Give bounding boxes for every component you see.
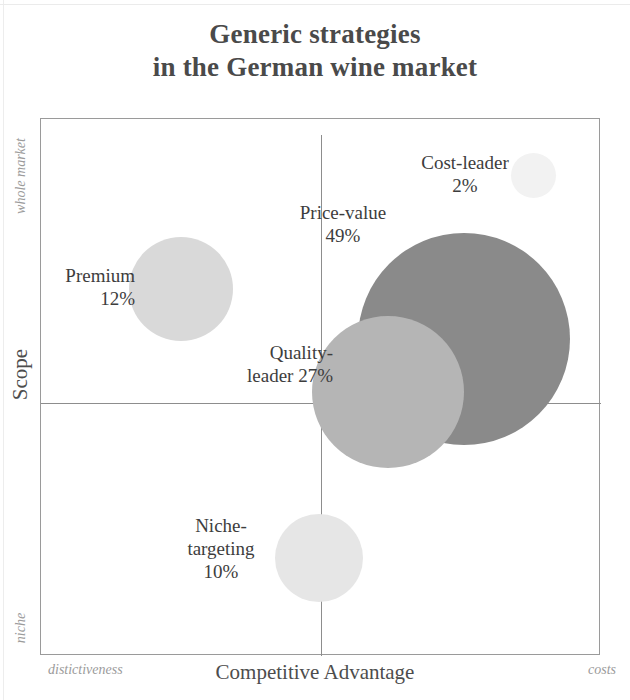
chart-title-line-1: Generic strategies — [0, 18, 630, 51]
x-axis-left-caption: distictiveness — [48, 662, 123, 678]
plot-area: Cost-leader 2% Price-value 49% Premium 1… — [40, 118, 600, 655]
label-niche-targeting-value: 10% — [165, 560, 277, 583]
x-axis-right-caption: costs — [588, 662, 616, 678]
label-quality-leader-value: leader 27% — [201, 364, 333, 387]
label-cost-leader-value: 2% — [387, 174, 543, 197]
label-premium: Premium 12% — [7, 264, 135, 310]
label-price-value: Price-value 49% — [273, 201, 413, 247]
chart-title: Generic strategies in the German wine ma… — [0, 18, 630, 84]
y-axis-title: Scope — [8, 327, 33, 423]
chart-title-line-2: in the German wine market — [0, 51, 630, 84]
label-premium-name: Premium — [7, 264, 135, 287]
y-axis-bottom-caption: niche — [13, 602, 29, 654]
label-quality-leader: Quality- leader 27% — [201, 341, 333, 387]
label-premium-value: 12% — [7, 287, 135, 310]
label-niche-targeting: Niche- targeting 10% — [165, 514, 277, 584]
label-cost-leader-name: Cost-leader — [387, 151, 543, 174]
bubble-niche-targeting[interactable] — [275, 514, 363, 602]
y-axis-top-caption: whole market — [13, 134, 29, 218]
label-niche-targeting-name-2: targeting — [165, 537, 277, 560]
scan-edge-left — [3, 0, 4, 700]
bubble-quality-leader[interactable] — [312, 316, 464, 468]
label-quality-leader-name: Quality- — [201, 341, 333, 364]
label-price-value-name: Price-value — [273, 201, 413, 224]
bubble-premium[interactable] — [129, 237, 233, 341]
label-cost-leader: Cost-leader 2% — [387, 151, 543, 197]
label-niche-targeting-name-1: Niche- — [165, 514, 277, 537]
scan-edge-top — [0, 4, 630, 5]
label-price-value-value: 49% — [273, 224, 413, 247]
